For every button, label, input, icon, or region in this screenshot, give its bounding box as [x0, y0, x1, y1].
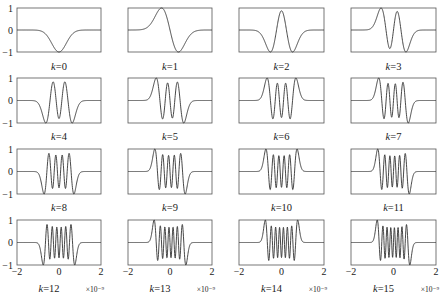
x-tick-label: 0: [391, 266, 396, 277]
y-tick-label: 1: [8, 215, 13, 226]
x-tick-label: 2: [99, 266, 104, 277]
x-tick-label: 0: [279, 266, 284, 277]
panel-label: k=11: [383, 202, 404, 213]
panel-label: k=10: [271, 202, 292, 213]
x-tick-label: 0: [57, 266, 62, 277]
waveform-line: [17, 30, 101, 52]
y-tick-label: −1: [2, 189, 13, 200]
chart-canvas: k=010−1k=1k=2k=3k=410−1k=5k=6k=7k=810−1k…: [0, 0, 441, 303]
panel-label: k=0: [51, 61, 67, 72]
y-tick-label: −1: [2, 118, 13, 129]
panel-label: k=5: [162, 131, 178, 142]
panel-label: k=9: [162, 202, 178, 213]
panel-label: k=2: [274, 61, 290, 72]
y-tick-label: 0: [8, 25, 13, 36]
x-axis-multiplier: ×10⁻⁹: [86, 285, 105, 294]
waveform-line: [17, 153, 101, 194]
waveform-line: [239, 220, 324, 260]
panel-label: k=8: [51, 202, 67, 213]
panel-label: k=4: [51, 131, 68, 142]
waveform-line: [351, 149, 436, 194]
waveform-line: [128, 149, 212, 194]
waveform-line: [239, 78, 324, 119]
y-tick-label: 1: [8, 73, 13, 84]
x-axis-multiplier: ×10⁻⁹: [309, 285, 328, 294]
waveform-line: [17, 82, 101, 123]
panel-label: k=15: [373, 283, 394, 294]
panel-label: k=3: [386, 61, 402, 72]
pulse-waveform-grid-chart: k=010−1k=1k=2k=3k=410−1k=5k=6k=7k=810−1k…: [0, 0, 441, 303]
waveform-line: [239, 149, 324, 190]
x-tick-label: −2: [346, 266, 357, 277]
x-axis-multiplier: ×10⁻⁹: [197, 285, 216, 294]
waveform-line: [239, 11, 324, 52]
x-tick-label: 2: [322, 266, 327, 277]
waveform-line: [128, 220, 212, 265]
x-tick-label: −2: [12, 266, 23, 277]
panel-label: k=1: [162, 61, 178, 72]
waveform-line: [17, 224, 101, 265]
waveform-line: [351, 8, 436, 52]
panel-label: k=13: [149, 283, 170, 294]
waveform-line: [351, 220, 436, 265]
x-tick-label: −2: [234, 266, 245, 277]
panel-label: k=12: [38, 283, 59, 294]
x-tick-label: 2: [210, 266, 215, 277]
x-tick-label: −2: [123, 266, 134, 277]
y-tick-label: −1: [2, 47, 13, 58]
waveform-line: [128, 78, 212, 123]
y-tick-label: 0: [8, 95, 13, 106]
panel-label: k=7: [386, 131, 402, 142]
x-tick-label: 0: [168, 266, 173, 277]
y-tick-label: 1: [8, 144, 13, 155]
x-axis-multiplier: ×10⁻⁹: [421, 285, 440, 294]
panel-label: k=14: [261, 283, 283, 294]
y-tick-label: 0: [8, 237, 13, 248]
waveform-line: [351, 78, 436, 123]
y-tick-label: 0: [8, 166, 13, 177]
panel-label: k=6: [274, 131, 290, 142]
y-tick-label: 1: [8, 3, 13, 14]
x-tick-label: 2: [434, 266, 439, 277]
waveform-line: [128, 8, 212, 52]
